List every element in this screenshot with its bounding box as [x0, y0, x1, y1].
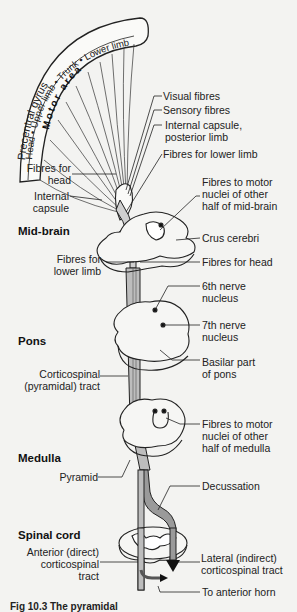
label-line: head [27, 174, 71, 186]
label-line: 7th nerve [202, 319, 246, 331]
medulla-section [120, 399, 185, 456]
label-fibres-for-head-left: Fibres for head [27, 162, 71, 186]
label-line: posterior limb [165, 131, 242, 143]
label-motor-nuclei-midbrain: Fibres to motor nuclei of other half of … [202, 176, 277, 212]
label-crus-cerebri: Crus cerebri [202, 232, 259, 244]
label-line: Fibres to motor [202, 418, 273, 430]
label-line: half of medulla [202, 442, 273, 454]
anterior-horn-arrowhead [160, 574, 168, 582]
label-line: Lateral (indirect) [201, 552, 283, 564]
label-line: Anterior (direct) [27, 546, 99, 558]
section-spinal-cord: Spinal cord [18, 529, 81, 541]
label-line: half of mid-brain [202, 200, 277, 212]
lateral-tract-arrowhead [166, 560, 180, 572]
section-midbrain: Mid-brain [18, 225, 70, 237]
label-sensory-fibres: Sensory fibres [163, 104, 230, 116]
lateral-tract-over-cord [170, 528, 176, 560]
label-line: Fibres for [27, 162, 71, 174]
spinal-cord-section [119, 527, 187, 563]
section-pons: Pons [18, 335, 46, 347]
midbrain-section [97, 212, 195, 272]
label-fibres-for-head: Fibres for head [202, 256, 273, 268]
anterior-tract-over-cord [138, 528, 144, 590]
label-line: Internal [33, 190, 69, 202]
label-line: Fibres to motor [202, 176, 277, 188]
label-line: Fibres for [54, 253, 101, 265]
label-anterior-tract: Anterior (direct) corticospinal tract [27, 546, 99, 582]
label-line: Corticospinal [24, 368, 100, 380]
label-line: lower limb [54, 265, 101, 277]
label-seventh-nerve-nucleus: 7th nerve nucleus [202, 319, 246, 343]
label-line: 6th nerve [202, 280, 246, 292]
label-line: capsule [33, 202, 69, 214]
label-line: Internal capsule, [165, 119, 242, 131]
label-motor-nuclei-medulla: Fibres to motor nuclei of other half of … [202, 418, 273, 454]
label-visual-fibres: Visual fibres [163, 90, 220, 102]
label-sixth-nerve-nucleus: 6th nerve nucleus [202, 280, 246, 304]
label-line: nucleus [202, 331, 246, 343]
label-decussation: Decussation [202, 480, 260, 492]
label-fibres-lower-limb-left: Fibres for lower limb [54, 253, 101, 277]
label-line: nuclei of other [202, 430, 273, 442]
label-lateral-tract: Lateral (indirect) corticospinal tract [201, 552, 283, 576]
label-line: nuclei of other [202, 188, 277, 200]
label-basilar-pons: Basilar part of pons [202, 356, 255, 380]
label-pyramid: Pyramid [59, 471, 98, 483]
section-medulla: Medulla [18, 452, 61, 464]
label-corticospinal-tract: Corticospinal (pyramidal) tract [24, 368, 100, 392]
label-line: tract [27, 570, 99, 582]
label-internal-capsule: Internal capsule [33, 190, 69, 214]
label-line: of pons [202, 368, 255, 380]
label-line: corticospinal tract [201, 564, 283, 576]
label-line: Basilar part [202, 356, 255, 368]
label-anterior-horn: To anterior horn [202, 586, 276, 598]
figure-caption: Fig 10.3 The pyramidal [10, 601, 118, 612]
label-internal-capsule-posterior: Internal capsule, posterior limb [165, 119, 242, 143]
label-line: nucleus [202, 292, 246, 304]
label-line: corticospinal [27, 558, 99, 570]
label-line: (pyramidal) tract [24, 380, 100, 392]
label-fibres-lower-limb-top: Fibres for lower limb [163, 148, 258, 160]
